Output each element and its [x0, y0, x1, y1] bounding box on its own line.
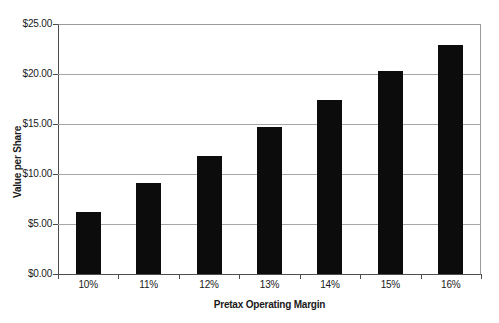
bar — [197, 156, 222, 274]
gridline — [58, 74, 481, 75]
x-tick — [179, 274, 180, 279]
x-tick-label: 16% — [426, 279, 476, 291]
y-tick-label: $10.00 — [7, 168, 52, 180]
x-tick — [118, 274, 119, 279]
y-axis-title: Value per Share — [12, 126, 23, 198]
x-tick-label: 13% — [245, 279, 295, 291]
y-tick — [53, 74, 58, 75]
bar — [317, 100, 342, 274]
x-tick-label: 10% — [63, 279, 113, 291]
x-tick — [481, 274, 482, 279]
y-tick-label: $25.00 — [7, 18, 52, 30]
y-tick-label: $15.00 — [7, 118, 52, 130]
y-tick — [53, 124, 58, 125]
y-tick-label: $20.00 — [7, 68, 52, 80]
x-tick — [239, 274, 240, 279]
bar — [257, 127, 282, 274]
x-tick-label: 12% — [184, 279, 234, 291]
y-tick — [53, 174, 58, 175]
x-tick-label: 14% — [305, 279, 355, 291]
x-tick-label: 15% — [365, 279, 415, 291]
x-tick — [58, 274, 59, 279]
x-tick-label: 11% — [124, 279, 174, 291]
bar — [136, 183, 161, 274]
bar — [438, 45, 463, 274]
y-tick — [53, 24, 58, 25]
bar — [378, 71, 403, 274]
x-tick — [360, 274, 361, 279]
bar-chart: Value per Share $0.00$5.00$10.00$15.00$2… — [0, 0, 499, 323]
y-tick-label: $0.00 — [7, 268, 52, 280]
y-tick-label: $5.00 — [7, 218, 52, 230]
y-tick — [53, 224, 58, 225]
bar — [76, 212, 101, 274]
gridline — [58, 124, 481, 125]
x-tick — [300, 274, 301, 279]
x-tick — [421, 274, 422, 279]
x-axis-title: Pretax Operating Margin — [58, 299, 481, 310]
